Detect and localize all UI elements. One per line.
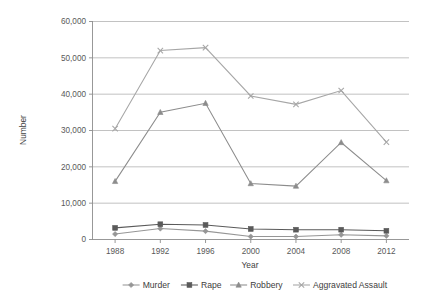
x-axis-tick-label: 1988 xyxy=(106,247,125,256)
y-axis-tick-label: 50,000 xyxy=(61,54,86,63)
data-point-marker-square xyxy=(158,222,163,227)
series-aggravated-assault xyxy=(112,45,389,145)
data-point-marker-square xyxy=(187,283,192,288)
legend-item-aggravated-assault[interactable]: Aggravated Assault xyxy=(293,280,388,290)
y-axis-tick-label: 60,000 xyxy=(61,17,86,26)
data-point-marker-diamond xyxy=(339,232,344,237)
y-axis-tick-label: 0 xyxy=(81,235,86,244)
legend-item-rape[interactable]: Rape xyxy=(181,280,222,290)
data-point-marker-square xyxy=(203,223,208,228)
data-point-marker-square xyxy=(294,227,299,232)
y-axis-tick-label: 10,000 xyxy=(61,199,86,208)
series-rape xyxy=(113,222,389,233)
y-axis-tick-label: 30,000 xyxy=(61,126,86,135)
series-line xyxy=(115,103,386,186)
x-axis-tick-label: 2004 xyxy=(287,247,306,256)
x-axis-tick-label: 2012 xyxy=(377,247,396,256)
x-axis-tick-label: 1992 xyxy=(151,247,170,256)
legend-item-robbery[interactable]: Robbery xyxy=(230,280,283,290)
data-point-marker-diamond xyxy=(248,234,253,239)
gridlines-group xyxy=(93,22,410,204)
x-axis-tick-label: 2000 xyxy=(242,247,261,256)
legend-label: Robbery xyxy=(250,280,283,290)
y-axis-tick-label: 20,000 xyxy=(61,163,86,172)
line-chart-figure: 010,00020,00030,00040,00050,00060,000 19… xyxy=(0,0,425,301)
data-point-marker-square xyxy=(384,228,389,233)
x-axis-tick-group: 1988199219962000200420082012 xyxy=(106,240,396,256)
data-point-marker-triangle xyxy=(339,140,344,145)
x-axis-title: Year xyxy=(242,260,259,270)
legend-label: Rape xyxy=(201,280,222,290)
chart-legend: MurderRapeRobberyAggravated Assault xyxy=(123,280,388,290)
chart-canvas: 010,00020,00030,00040,00050,00060,000 19… xyxy=(0,0,425,301)
data-point-marker-square xyxy=(248,227,253,232)
data-point-marker-square xyxy=(339,227,344,232)
data-point-marker-cross xyxy=(384,139,389,144)
data-point-marker-square xyxy=(113,225,118,230)
y-axis-tick-label: 40,000 xyxy=(61,90,86,99)
x-axis-tick-label: 2008 xyxy=(332,247,351,256)
data-point-marker-diamond xyxy=(203,229,208,234)
y-axis-tick-group: 010,00020,00030,00040,00050,00060,000 xyxy=(61,17,93,244)
data-point-marker-diamond xyxy=(293,234,298,239)
data-point-marker-triangle xyxy=(203,100,208,105)
data-point-marker-diamond xyxy=(129,282,134,287)
legend-label: Aggravated Assault xyxy=(313,280,388,290)
y-axis-title: Number xyxy=(18,115,28,145)
series-line xyxy=(115,48,386,142)
legend-label: Murder xyxy=(143,280,170,290)
data-series-group xyxy=(112,45,389,239)
legend-item-murder[interactable]: Murder xyxy=(123,280,170,290)
x-axis-tick-label: 1996 xyxy=(196,247,215,256)
data-point-marker-diamond xyxy=(384,233,389,238)
data-point-marker-cross xyxy=(338,88,343,93)
data-point-marker-diamond xyxy=(113,231,118,236)
series-robbery xyxy=(112,100,389,188)
